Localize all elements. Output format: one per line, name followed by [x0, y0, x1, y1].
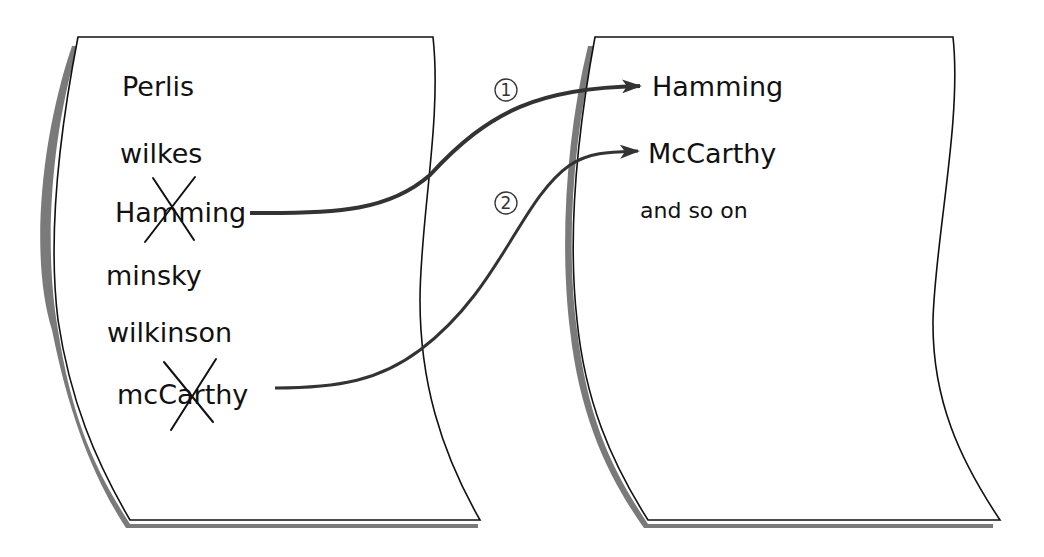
target-page-sheet — [573, 37, 1000, 520]
source-item-wilkinson: wilkinson — [107, 317, 232, 348]
diagram-canvas: Perlis wilkes Hamming minsky wilkinson m… — [0, 0, 1044, 557]
arrow-1-label: 1 — [501, 80, 512, 100]
source-item-perlis: Perlis — [122, 71, 194, 102]
svg-text:Hamming: Hamming — [115, 197, 246, 228]
source-page: Perlis wilkes Hamming minsky wilkinson m… — [40, 37, 480, 528]
target-item-hamming: Hamming — [652, 71, 783, 102]
source-item-minsky: minsky — [106, 260, 202, 291]
target-item-mccarthy: McCarthy — [648, 138, 776, 169]
target-item-and-so-on: and so on — [640, 198, 748, 223]
target-page: Hamming McCarthy and so on — [565, 37, 1000, 528]
source-item-wilkes: wilkes — [120, 138, 202, 169]
arrow-2-label: 2 — [501, 193, 512, 213]
